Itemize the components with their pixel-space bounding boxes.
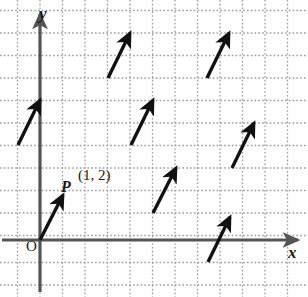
vector-arrows	[18, 33, 254, 262]
point-label-p: P	[61, 178, 71, 196]
grid-horizontal-lines	[0, 11, 308, 286]
diagram-svg	[0, 0, 308, 297]
x-axis-label: x	[288, 243, 297, 263]
point-coordinates-label: (1, 2)	[78, 167, 111, 184]
arrow-left	[18, 100, 40, 145]
origin-label: O	[26, 238, 37, 255]
grid-vertical-lines	[18, 0, 288, 297]
y-axis-label: y	[39, 4, 47, 24]
figure-canvas: y x O P (1, 2)	[0, 0, 308, 297]
arrow-origin-P	[40, 195, 63, 240]
